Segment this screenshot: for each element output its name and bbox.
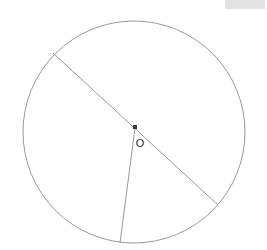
radius-center-to-bottom: [120, 128, 135, 243]
circle-geometry-figure: O: [0, 0, 267, 250]
center-point-o: [133, 125, 137, 129]
center-label-o: O: [136, 137, 145, 149]
diagram-canvas: O: [0, 0, 267, 250]
top-right-blank-swatch: [225, 0, 265, 9]
